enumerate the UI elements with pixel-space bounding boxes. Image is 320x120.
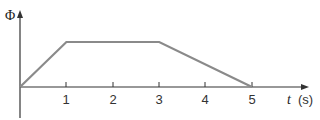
- x-ticks: [66, 82, 252, 87]
- x-axis-label: t (s): [287, 90, 313, 107]
- x-tick-label: 4: [201, 92, 208, 107]
- chart: 1 2 3 4 5 Φ t (s): [0, 0, 320, 120]
- y-axis-arrow-icon: [17, 10, 23, 18]
- x-tick-label: 1: [62, 92, 69, 107]
- x-axis-variable: t: [287, 92, 292, 107]
- series-line: [20, 42, 252, 87]
- x-tick-label: 3: [155, 92, 162, 107]
- x-axis-arrow-icon: [301, 84, 309, 90]
- y-axis-label: Φ: [5, 8, 15, 23]
- x-axis-unit: (s): [298, 92, 313, 107]
- x-tick-label: 2: [109, 92, 116, 107]
- x-tick-label: 5: [248, 92, 255, 107]
